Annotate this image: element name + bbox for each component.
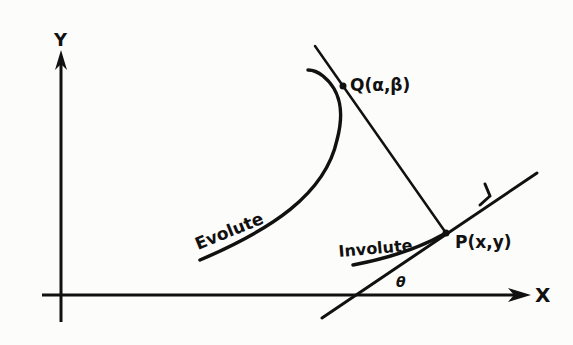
y-axis-label: Y <box>53 29 68 50</box>
evolute-involute-diagram: Y X Q(α,β) P(x,y) Evolute Involute θ <box>0 0 573 345</box>
point-p-label: P(x,y) <box>455 232 512 252</box>
tangent-direction-arrow-icon <box>480 184 490 205</box>
point-p <box>443 230 450 237</box>
angle-theta-label: θ <box>396 274 406 290</box>
diagram-svg: Y X Q(α,β) P(x,y) Evolute Involute θ <box>0 0 573 345</box>
x-axis-label: X <box>535 283 551 307</box>
y-axis <box>55 50 67 322</box>
point-q <box>340 83 347 90</box>
point-q-label: Q(α,β) <box>350 75 410 95</box>
x-axis <box>42 288 531 302</box>
involute-label: Involute <box>338 236 414 261</box>
